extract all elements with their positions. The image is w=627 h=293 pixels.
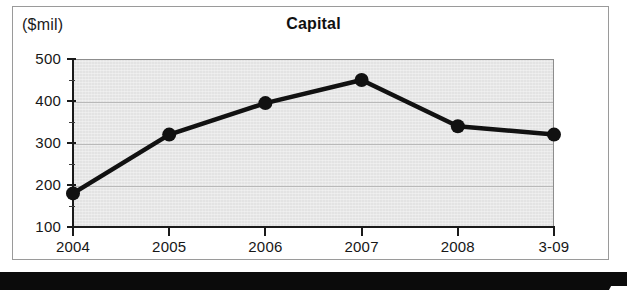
x-tick-label-2008: 2008 [413,238,503,255]
y-tick-label-200: 200 [1,176,61,193]
x-tick-3-09 [553,228,555,236]
x-tick-label-2007: 2007 [317,238,407,255]
y-tick-300 [67,142,76,144]
y-tick-label-500: 500 [1,50,61,67]
y-minor-tick-150 [69,206,75,207]
x-tick-label-2004: 2004 [28,238,118,255]
gridline-y-300 [73,144,553,145]
x-tick-2008 [457,228,459,236]
x-tick-2005 [168,228,170,236]
gridline-y-400 [73,102,553,103]
y-tick-200 [67,184,76,186]
x-tick-label-3-09: 3-09 [509,238,599,255]
x-tick-label-2005: 2005 [124,238,214,255]
x-tick-2006 [264,228,266,236]
y-tick-label-100: 100 [1,218,61,235]
x-tick-2004 [72,228,74,236]
page-edge-artifact [0,272,627,290]
x-tick-2007 [361,228,363,236]
x-axis-line [72,226,555,228]
y-tick-500 [67,58,76,60]
y-tick-label-400: 400 [1,92,61,109]
y-minor-tick-450 [69,80,75,81]
y-tick-400 [67,100,76,102]
gridline-y-200 [73,186,553,187]
y-tick-label-300: 300 [1,134,61,151]
y-minor-tick-250 [69,164,75,165]
y-minor-tick-350 [69,122,75,123]
chart-title: Capital [0,15,627,33]
plot-area [73,59,554,227]
x-tick-label-2006: 2006 [220,238,310,255]
